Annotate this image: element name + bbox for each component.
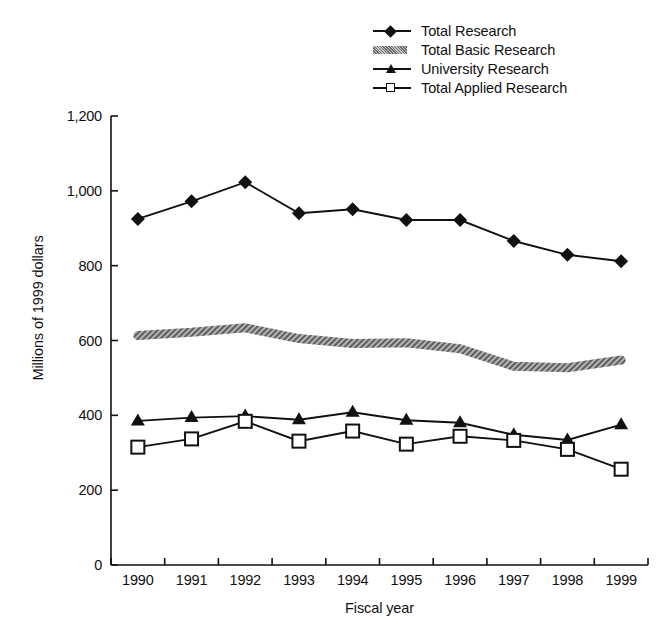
y-tick-label: 1,200 xyxy=(42,109,102,123)
x-tick-label: 1993 xyxy=(269,572,329,588)
y-axis-tick-labels: 02004006008001,0001,200 xyxy=(40,0,102,644)
legend-item-university-research: University Research xyxy=(372,60,652,78)
x-tick-label: 1995 xyxy=(376,572,436,588)
legend-key-filled-triangle-icon xyxy=(372,61,412,77)
y-tick-label: 0 xyxy=(42,558,102,572)
legend-label-university-research: University Research xyxy=(421,61,549,77)
x-tick-label: 1991 xyxy=(162,572,222,588)
legend-key-filled-diamond-icon xyxy=(372,23,412,39)
y-tick-label: 600 xyxy=(42,334,102,348)
x-tick-label: 1997 xyxy=(484,572,544,588)
x-tick-label: 1990 xyxy=(108,572,168,588)
legend-label-total-applied-research: Total Applied Research xyxy=(421,80,567,96)
x-tick-label: 1996 xyxy=(430,572,490,588)
x-tick-label: 1992 xyxy=(215,572,275,588)
legend-label-total-basic-research: Total Basic Research xyxy=(421,42,555,58)
chart-figure: Total Research Total Basic Research Univ… xyxy=(0,0,668,644)
series-lines xyxy=(131,175,628,475)
x-tick-label: 1998 xyxy=(537,572,597,588)
x-tick-label: 1994 xyxy=(323,572,383,588)
legend-item-total-basic-research: Total Basic Research xyxy=(372,41,652,59)
legend-key-open-square-icon xyxy=(372,80,412,96)
chart-legend: Total Research Total Basic Research Univ… xyxy=(372,22,652,98)
x-axis-title: Fiscal year xyxy=(111,600,648,616)
y-tick-label: 400 xyxy=(42,408,102,422)
legend-label-total-research: Total Research xyxy=(421,23,516,39)
y-tick-label: 800 xyxy=(42,259,102,273)
legend-item-total-applied-research: Total Applied Research xyxy=(372,79,652,97)
legend-key-hatched-band-icon xyxy=(372,42,412,58)
legend-item-total-research: Total Research xyxy=(372,22,652,40)
x-tick-label: 1999 xyxy=(591,572,651,588)
y-tick-label: 200 xyxy=(42,483,102,497)
y-tick-label: 1,000 xyxy=(42,184,102,198)
